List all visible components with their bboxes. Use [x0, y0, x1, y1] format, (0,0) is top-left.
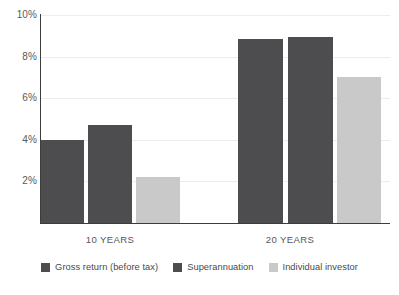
- legend-item-individual-investor: Individual investor: [269, 262, 358, 272]
- bar-20y-superannuation: [288, 37, 333, 223]
- bar-10y-gross-return: [41, 140, 84, 223]
- legend: Gross return (before tax) Superannuation…: [0, 262, 399, 272]
- x-axis-group-label-20-years: 20 YEARS: [240, 234, 340, 245]
- legend-item-gross-return: Gross return (before tax): [41, 262, 158, 272]
- legend-label: Individual investor: [283, 262, 358, 272]
- legend-swatch-icon: [173, 263, 182, 272]
- bar-10y-superannuation: [88, 125, 132, 223]
- bar-20y-individual-investor: [337, 77, 381, 223]
- legend-swatch-icon: [269, 263, 278, 272]
- legend-item-superannuation: Superannuation: [173, 262, 253, 272]
- bar-20y-gross-return: [238, 39, 283, 223]
- bar-chart: 10% 8% 6% 4% 2% 10 YEARS 20 YEARS Gross …: [0, 0, 399, 295]
- legend-swatch-icon: [41, 263, 50, 272]
- bars-layer: [0, 0, 399, 223]
- bar-10y-individual-investor: [136, 177, 180, 223]
- legend-label: Gross return (before tax): [55, 262, 158, 272]
- x-axis-group-label-10-years: 10 YEARS: [60, 234, 160, 245]
- legend-label: Superannuation: [187, 262, 253, 272]
